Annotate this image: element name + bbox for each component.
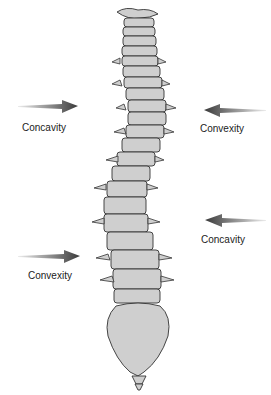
annotation-label: Concavity [22,122,66,133]
spine-illustration [0,0,271,395]
annotation-label: Convexity [28,270,72,281]
annotation-label: Concavity [201,234,245,245]
arrow-left-icon [205,214,266,227]
vertebral-column [104,8,169,390]
annotation-label: Convexity [200,123,244,134]
arrow-left-icon [204,104,266,117]
arrow-right-icon [18,100,78,113]
scoliosis-diagram: Concavity Convexity Concavity Convexity [0,0,271,395]
arrow-right-icon [18,250,80,263]
